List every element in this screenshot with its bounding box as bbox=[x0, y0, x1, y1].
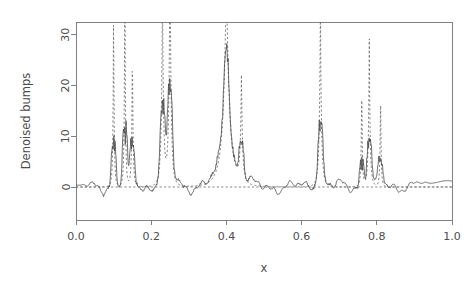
x-axis-title: x bbox=[261, 261, 268, 275]
x-tick-label: 0.0 bbox=[67, 230, 85, 243]
y-tick-label: 20 bbox=[60, 78, 73, 92]
y-tick-label: 0 bbox=[60, 184, 73, 191]
x-tick-label: 0.8 bbox=[368, 230, 386, 243]
x-tick-label: 0.2 bbox=[142, 230, 160, 243]
y-axis-title: Denoised bumps bbox=[19, 73, 33, 170]
x-tick-label: 0.4 bbox=[218, 230, 236, 243]
bumps-denoising-plot: 0102030 0.00.20.40.60.81.0 Denoised bump… bbox=[0, 0, 476, 284]
chart-figure: 0102030 0.00.20.40.60.81.0 Denoised bump… bbox=[0, 0, 476, 284]
x-tick-label: 0.6 bbox=[293, 230, 311, 243]
y-tick-label: 30 bbox=[60, 28, 73, 42]
x-tick-label: 1.0 bbox=[443, 230, 461, 243]
y-tick-label: 10 bbox=[60, 129, 73, 143]
